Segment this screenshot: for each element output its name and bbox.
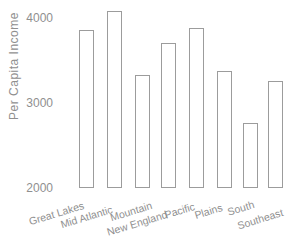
bar-mountain <box>135 75 150 188</box>
bar-chart: Per Capita Income 400030002000 Great Lak… <box>0 0 287 240</box>
bar-southeast <box>268 81 283 188</box>
bar-great-lakes <box>79 30 94 188</box>
y-tick-label: 4000 <box>0 12 53 24</box>
bar-mid-atlantic <box>107 11 122 188</box>
bar-plains <box>217 71 232 188</box>
y-tick-label: 2000 <box>0 182 53 194</box>
x-tick-label-plains: Plains <box>193 202 224 221</box>
bar-pacific <box>189 28 204 188</box>
bar-new-england <box>161 43 176 188</box>
y-tick-label: 3000 <box>0 97 53 109</box>
x-tick-label-pacific: Pacific <box>163 201 196 221</box>
bar-south <box>243 123 258 188</box>
